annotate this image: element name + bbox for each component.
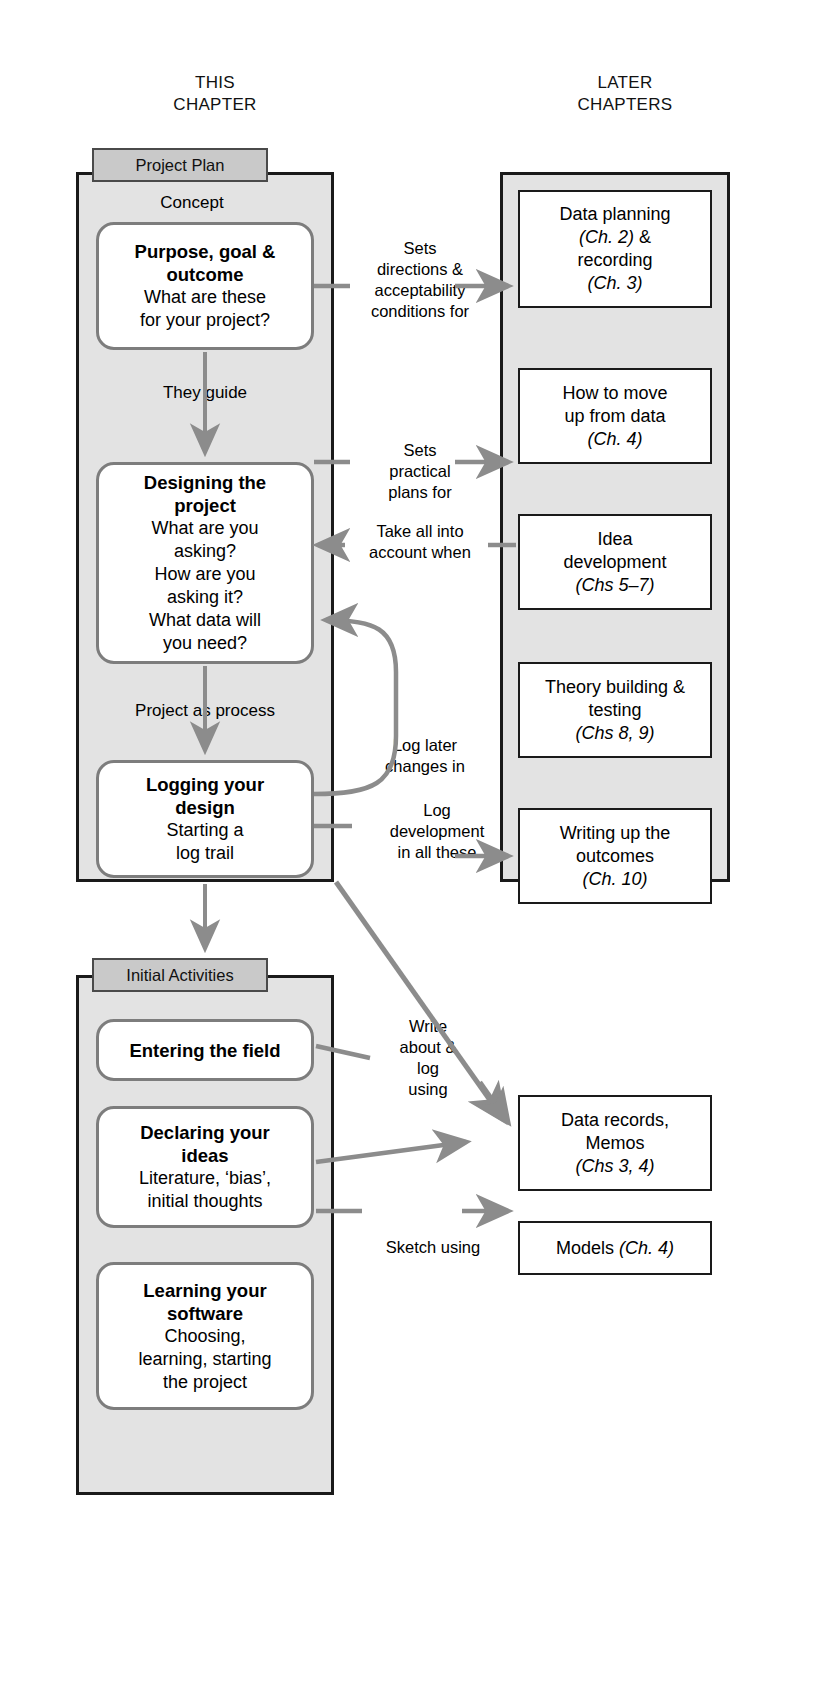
box-models-label: Models (556, 1238, 619, 1258)
box-logging-sub-line2: log trail (176, 842, 234, 865)
box-learning-title-line1: Learning your (143, 1279, 266, 1302)
column-header-this-chapter-line2: CHAPTER (120, 94, 310, 116)
box-data-planning-line2: (Ch. 2) & (579, 226, 651, 249)
box-logging-title-line1: Logging your (146, 773, 264, 796)
column-header-this-chapter: THIS CHAPTER (120, 72, 310, 116)
box-data-records-line2: Memos (585, 1132, 644, 1155)
box-writing-up-the-outcomes[interactable]: Writing up the outcomes (Ch. 10) (518, 808, 712, 904)
edge-label-sketch-using: Sketch using (368, 1237, 498, 1258)
box-purpose-title-line2: outcome (166, 263, 243, 286)
box-models-line1: Models (Ch. 4) (556, 1237, 674, 1260)
box-purpose-title-line1: Purpose, goal & (135, 240, 276, 263)
edge-label-sets-practical-line3: plans for (355, 482, 485, 503)
edge-label-sets-practical-line2: practical (355, 461, 485, 482)
column-header-later-chapters: LATER CHAPTERS (520, 72, 730, 116)
edge-label-log-later-changes: Log later changes in (360, 735, 490, 777)
box-data-planning-recording[interactable]: Data planning (Ch. 2) & recording (Ch. 3… (518, 190, 712, 308)
edge-label-sets-practical-line1: Sets (355, 440, 485, 461)
box-designing-sub-line4: asking it? (167, 586, 243, 609)
edge-label-take-all-line1: Take all into (345, 521, 495, 542)
box-theory-building-line2: testing (588, 699, 641, 722)
edge-label-write-about-log-using: Write about & log using (378, 1016, 478, 1100)
box-writing-up-line1: Writing up the (560, 822, 671, 845)
edge-label-log-later-line2: changes in (360, 756, 490, 777)
box-declaring-sub-line1: Literature, ‘bias’, (139, 1167, 271, 1190)
box-declaring-your-ideas[interactable]: Declaring your ideas Literature, ‘bias’,… (96, 1106, 314, 1228)
box-purpose-sub-line2: for your project? (140, 309, 270, 332)
column-header-this-chapter-line1: THIS (120, 72, 310, 94)
box-entering-title-line1: Entering the field (129, 1039, 280, 1062)
box-how-to-move-line1: How to move (562, 382, 667, 405)
box-purpose-goal-outcome[interactable]: Purpose, goal & outcome What are these f… (96, 222, 314, 350)
box-entering-the-field[interactable]: Entering the field (96, 1019, 314, 1081)
box-logging-your-design[interactable]: Logging your design Starting a log trail (96, 760, 314, 878)
box-data-planning-line1: Data planning (559, 203, 670, 226)
edge-label-sketch-using-line1: Sketch using (368, 1237, 498, 1258)
edge-label-log-development-line3: in all these (372, 842, 502, 863)
box-idea-development-line2: development (563, 551, 666, 574)
edge-label-write-line4: using (378, 1079, 478, 1100)
box-theory-building-testing[interactable]: Theory building & testing (Chs 8, 9) (518, 662, 712, 758)
diagram-canvas: THIS CHAPTER LATER CHAPTERS Project Plan… (0, 0, 813, 1682)
box-writing-up-line3: (Ch. 10) (582, 868, 647, 891)
box-theory-building-line3: (Chs 8, 9) (575, 722, 654, 745)
edge-label-write-line1: Write (378, 1016, 478, 1037)
box-idea-development-line3: (Chs 5–7) (575, 574, 654, 597)
caption-concept: Concept (92, 192, 292, 214)
box-models[interactable]: Models (Ch. 4) (518, 1221, 712, 1275)
edge-label-sets-directions-line4: conditions for (355, 301, 485, 322)
box-learning-title-line2: software (167, 1302, 243, 1325)
box-designing-sub-line6: you need? (163, 632, 247, 655)
flow-label-they-guide: They guide (110, 382, 300, 404)
box-theory-building-line1: Theory building & (545, 676, 685, 699)
box-declaring-sub-line2: initial thoughts (147, 1190, 262, 1213)
edge-label-log-development: Log development in all these (372, 800, 502, 863)
box-how-to-move-up-from-data[interactable]: How to move up from data (Ch. 4) (518, 368, 712, 464)
box-designing-sub-line3: How are you (154, 563, 255, 586)
box-designing-the-project[interactable]: Designing the project What are you askin… (96, 462, 314, 664)
box-designing-sub-line2: asking? (174, 540, 236, 563)
group-tab-project-plan-label: Project Plan (136, 156, 225, 174)
box-designing-title-line1: Designing the (144, 471, 266, 494)
box-data-planning-line4: (Ch. 3) (587, 272, 642, 295)
edge-label-write-line2: about & (378, 1037, 478, 1058)
edge-label-sets-directions-line2: directions & (355, 259, 485, 280)
box-learning-your-software[interactable]: Learning your software Choosing, learnin… (96, 1262, 314, 1410)
box-writing-up-line2: outcomes (576, 845, 654, 868)
box-logging-sub-line1: Starting a (166, 819, 243, 842)
column-header-later-chapters-line2: CHAPTERS (520, 94, 730, 116)
edge-label-take-all-into-account: Take all into account when (345, 521, 495, 563)
arrow-declaring-ideas-to-data-records (316, 1142, 466, 1162)
edge-label-sets-practical-plans: Sets practical plans for (355, 440, 485, 503)
box-idea-development-line1: Idea (597, 528, 632, 551)
box-declaring-title-line2: ideas (181, 1144, 228, 1167)
box-learning-sub-line1: Choosing, (164, 1325, 245, 1348)
box-data-records-line3: (Chs 3, 4) (575, 1155, 654, 1178)
edge-label-sets-directions: Sets directions & acceptability conditio… (355, 238, 485, 322)
edge-label-write-line3: log (378, 1058, 478, 1079)
box-models-ch: (Ch. 4) (619, 1238, 674, 1258)
group-tab-project-plan: Project Plan (92, 148, 268, 182)
edge-label-sets-directions-line1: Sets (355, 238, 485, 259)
box-designing-title-line2: project (174, 494, 236, 517)
box-how-to-move-line3: (Ch. 4) (587, 428, 642, 451)
edge-label-log-development-line1: Log (372, 800, 502, 821)
box-designing-sub-line1: What are you (151, 517, 258, 540)
group-tab-initial-activities: Initial Activities (92, 958, 268, 992)
box-data-records-line1: Data records, (561, 1109, 669, 1132)
flow-label-project-as-process-text: Project as process (135, 701, 275, 720)
box-data-planning-line2-ch: (Ch. 2) (579, 227, 634, 247)
edge-label-log-development-line2: development (372, 821, 502, 842)
edge-label-log-later-line1: Log later (360, 735, 490, 756)
flow-label-they-guide-text: They guide (163, 383, 247, 402)
column-header-later-chapters-line1: LATER (520, 72, 730, 94)
caption-concept-text: Concept (160, 193, 223, 212)
box-idea-development[interactable]: Idea development (Chs 5–7) (518, 514, 712, 610)
box-purpose-sub-line1: What are these (144, 286, 266, 309)
box-data-records-memos[interactable]: Data records, Memos (Chs 3, 4) (518, 1095, 712, 1191)
box-how-to-move-line2: up from data (564, 405, 665, 428)
arrow-entering-field-to-data-records (480, 1082, 508, 1122)
box-designing-sub-line5: What data will (149, 609, 261, 632)
box-logging-title-line2: design (175, 796, 235, 819)
edge-label-sets-directions-line3: acceptability (355, 280, 485, 301)
